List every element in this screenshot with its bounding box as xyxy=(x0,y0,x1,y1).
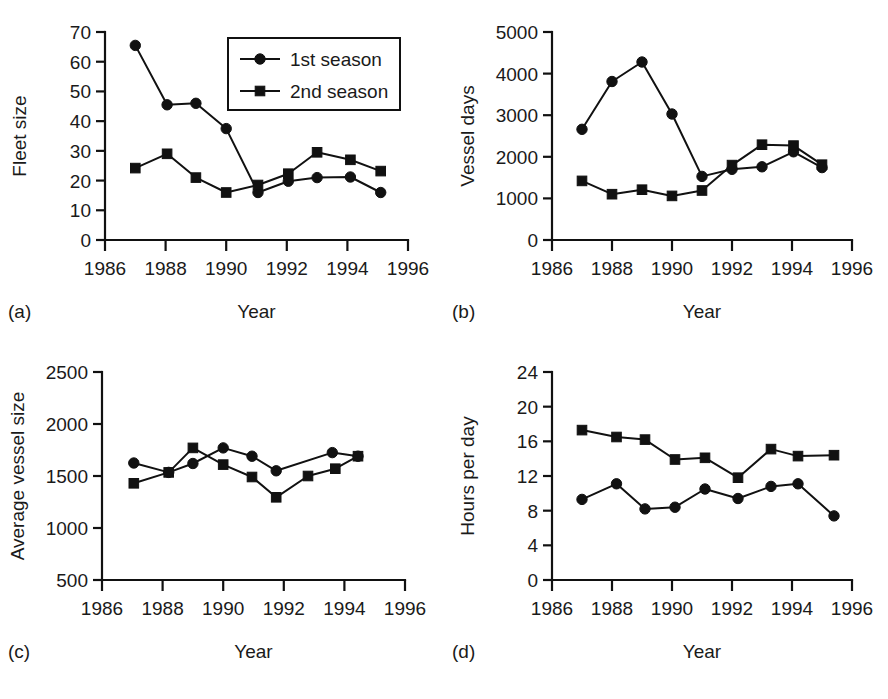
legend-label: 2nd season xyxy=(290,81,388,102)
y-axis-tick-label: 0 xyxy=(527,570,538,591)
square-marker-icon xyxy=(164,468,174,478)
circle-marker-icon xyxy=(667,109,677,119)
square-marker-icon xyxy=(331,464,341,474)
circle-marker-icon xyxy=(130,40,140,50)
square-marker-icon xyxy=(353,451,363,461)
circle-marker-icon xyxy=(221,123,231,133)
y-axis-title: Hours per day xyxy=(457,416,478,536)
x-axis-tick-label: 1994 xyxy=(771,258,814,279)
x-axis-tick-label: 1988 xyxy=(141,598,183,619)
circle-marker-icon xyxy=(327,447,337,457)
y-axis-tick-label: 4 xyxy=(527,535,538,556)
square-marker-icon xyxy=(191,173,201,183)
y-axis-tick-label: 0 xyxy=(527,230,538,251)
y-axis-tick-label: 1000 xyxy=(496,188,538,209)
square-marker-icon xyxy=(757,140,767,150)
y-axis-tick-label: 1000 xyxy=(46,518,88,539)
panel-b-vessel-days: 0100020003000400050001986198819901992199… xyxy=(444,0,888,340)
panel-b-plot: 0100020003000400050001986198819901992199… xyxy=(444,0,888,340)
x-axis-tick-label: 1992 xyxy=(263,598,305,619)
circle-marker-icon xyxy=(129,458,139,468)
x-axis-title: Year xyxy=(234,641,273,662)
circle-marker-icon xyxy=(793,479,803,489)
circle-marker-icon xyxy=(577,494,587,504)
legend-label: 1st season xyxy=(290,49,382,70)
y-axis-tick-label: 20 xyxy=(70,171,91,192)
square-marker-icon xyxy=(131,163,141,173)
y-axis-tick-label: 30 xyxy=(70,141,91,162)
y-axis-tick-label: 0 xyxy=(80,230,91,251)
square-marker-icon xyxy=(700,453,710,463)
panel-letter: (b) xyxy=(452,301,475,322)
panel-d-plot: 04812162024198619881990199219941996Hours… xyxy=(444,340,888,680)
square-marker-icon xyxy=(829,450,839,460)
x-axis-title: Year xyxy=(683,641,722,662)
circle-marker-icon xyxy=(191,98,201,108)
x-axis-tick-label: 1990 xyxy=(202,598,244,619)
x-axis-tick-label: 1994 xyxy=(323,598,366,619)
panel-d-hours-per-day: 04812162024198619881990199219941996Hours… xyxy=(444,340,888,680)
circle-marker-icon xyxy=(757,162,767,172)
y-axis-title: Fleet size xyxy=(9,95,30,176)
panel-letter: (a) xyxy=(8,301,31,322)
x-axis-tick-label: 1994 xyxy=(326,258,369,279)
series-line-1st-season xyxy=(582,62,822,176)
x-axis-tick-label: 1990 xyxy=(205,258,247,279)
x-axis-tick-label: 1988 xyxy=(144,258,186,279)
square-marker-icon xyxy=(817,160,827,170)
y-axis-tick-label: 60 xyxy=(70,52,91,73)
square-marker-icon xyxy=(766,444,776,454)
circle-marker-icon xyxy=(733,493,743,503)
x-axis-title: Year xyxy=(237,301,276,322)
circle-marker-icon xyxy=(162,100,172,110)
x-axis-tick-label: 1988 xyxy=(591,258,633,279)
y-axis-tick-label: 2000 xyxy=(496,147,538,168)
y-axis-tick-label: 10 xyxy=(70,200,91,221)
y-axis-tick-label: 2000 xyxy=(46,414,88,435)
square-marker-icon xyxy=(284,169,294,179)
square-marker-icon xyxy=(129,479,139,489)
circle-marker-icon xyxy=(829,511,839,521)
square-marker-icon xyxy=(670,455,680,465)
square-marker-icon xyxy=(640,435,650,445)
circle-marker-icon xyxy=(345,172,355,182)
square-marker-icon xyxy=(247,472,257,482)
y-axis-tick-label: 24 xyxy=(517,362,539,383)
x-axis-tick-label: 1990 xyxy=(651,598,693,619)
x-axis-tick-label: 1986 xyxy=(81,598,123,619)
circle-marker-icon xyxy=(697,171,707,181)
square-marker-icon xyxy=(346,155,356,165)
circle-marker-icon xyxy=(637,57,647,67)
y-axis-tick-label: 500 xyxy=(56,570,88,591)
panel-a-fleet-size: 010203040506070198619881990199219941996F… xyxy=(0,0,444,340)
circle-marker-icon xyxy=(577,124,587,134)
y-axis-tick-label: 5000 xyxy=(496,22,538,43)
square-marker-icon xyxy=(577,425,587,435)
panel-letter: (c) xyxy=(8,641,30,662)
y-axis-tick-label: 40 xyxy=(70,111,91,132)
x-axis-tick-label: 1994 xyxy=(771,598,814,619)
y-axis-title: Vessel days xyxy=(457,85,478,186)
square-marker-icon xyxy=(376,166,386,176)
x-axis-tick-label: 1996 xyxy=(384,598,426,619)
square-marker-icon xyxy=(789,141,799,151)
square-marker-icon xyxy=(255,86,265,96)
square-marker-icon xyxy=(312,148,322,158)
x-axis-title: Year xyxy=(683,301,722,322)
x-axis-tick-label: 1996 xyxy=(831,598,873,619)
circle-marker-icon xyxy=(670,502,680,512)
square-marker-icon xyxy=(667,191,677,201)
y-axis-tick-label: 16 xyxy=(517,431,538,452)
y-axis-tick-label: 1500 xyxy=(46,466,88,487)
y-axis-tick-label: 20 xyxy=(517,397,538,418)
square-marker-icon xyxy=(218,460,228,470)
circle-marker-icon xyxy=(271,466,281,476)
x-axis-tick-label: 1988 xyxy=(591,598,633,619)
square-marker-icon xyxy=(162,149,172,159)
x-axis-tick-label: 1990 xyxy=(651,258,693,279)
y-axis-tick-label: 12 xyxy=(517,466,538,487)
square-marker-icon xyxy=(727,160,737,170)
square-marker-icon xyxy=(221,188,231,198)
circle-marker-icon xyxy=(312,172,322,182)
square-marker-icon xyxy=(733,473,743,483)
